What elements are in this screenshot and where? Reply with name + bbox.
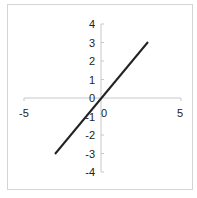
y-label-3: 3 bbox=[89, 37, 95, 49]
x-label-neg5: -5 bbox=[19, 107, 29, 119]
y-label-neg4: -4 bbox=[85, 166, 95, 178]
y-label-2: 2 bbox=[89, 55, 95, 67]
y-label-neg2: -2 bbox=[85, 129, 95, 141]
y-label-0: 0 bbox=[89, 92, 95, 104]
y-label-1: 1 bbox=[89, 74, 95, 86]
x-label-5: 5 bbox=[177, 107, 183, 119]
y-label-4: 4 bbox=[89, 18, 95, 30]
y-label-neg3: -3 bbox=[85, 148, 95, 160]
x-label-0: 0 bbox=[101, 107, 107, 119]
chart-plot: 4 3 2 1 0 -1 -2 -3 -4 -5 0 5 bbox=[0, 0, 197, 198]
